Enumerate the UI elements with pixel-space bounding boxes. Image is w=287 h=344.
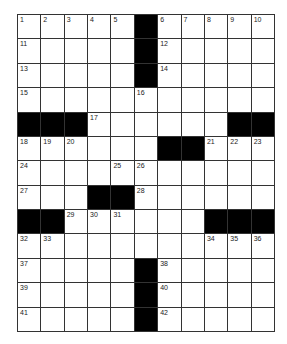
grid-cell[interactable]: 34 — [205, 234, 227, 257]
grid-cell[interactable]: 15 — [18, 88, 40, 111]
grid-cell[interactable] — [88, 234, 110, 257]
grid-cell[interactable] — [252, 88, 274, 111]
grid-cell[interactable]: 27 — [18, 186, 40, 209]
grid-cell[interactable] — [252, 283, 274, 306]
grid-cell[interactable] — [228, 39, 250, 62]
grid-cell[interactable] — [135, 113, 157, 136]
grid-cell[interactable]: 21 — [205, 137, 227, 160]
grid-cell[interactable]: 16 — [135, 88, 157, 111]
grid-cell[interactable] — [65, 308, 87, 331]
grid-cell[interactable] — [158, 161, 180, 184]
grid-cell[interactable] — [252, 64, 274, 87]
grid-cell[interactable] — [252, 259, 274, 282]
grid-cell[interactable]: 7 — [182, 15, 204, 38]
grid-cell[interactable] — [88, 39, 110, 62]
grid-cell[interactable] — [65, 259, 87, 282]
grid-cell[interactable] — [158, 234, 180, 257]
grid-cell[interactable]: 11 — [18, 39, 40, 62]
grid-cell[interactable] — [228, 308, 250, 331]
grid-cell[interactable] — [205, 186, 227, 209]
grid-cell[interactable] — [182, 161, 204, 184]
grid-cell[interactable]: 18 — [18, 137, 40, 160]
grid-cell[interactable] — [252, 39, 274, 62]
grid-cell[interactable] — [65, 283, 87, 306]
grid-cell[interactable] — [182, 283, 204, 306]
grid-cell[interactable]: 36 — [252, 234, 274, 257]
grid-cell[interactable] — [182, 210, 204, 233]
grid-cell[interactable]: 30 — [88, 210, 110, 233]
grid-cell[interactable]: 4 — [88, 15, 110, 38]
grid-cell[interactable] — [205, 259, 227, 282]
grid-cell[interactable]: 28 — [135, 186, 157, 209]
grid-cell[interactable]: 12 — [158, 39, 180, 62]
grid-cell[interactable] — [88, 259, 110, 282]
grid-cell[interactable] — [182, 88, 204, 111]
grid-cell[interactable]: 25 — [111, 161, 133, 184]
grid-cell[interactable] — [65, 161, 87, 184]
grid-cell[interactable]: 32 — [18, 234, 40, 257]
grid-cell[interactable] — [182, 186, 204, 209]
grid-cell[interactable] — [158, 186, 180, 209]
grid-cell[interactable] — [182, 64, 204, 87]
grid-cell[interactable]: 38 — [158, 259, 180, 282]
grid-cell[interactable] — [135, 234, 157, 257]
grid-cell[interactable] — [41, 161, 63, 184]
grid-cell[interactable]: 19 — [41, 137, 63, 160]
grid-cell[interactable]: 5 — [111, 15, 133, 38]
grid-cell[interactable] — [111, 64, 133, 87]
grid-cell[interactable]: 14 — [158, 64, 180, 87]
grid-cell[interactable] — [65, 186, 87, 209]
grid-cell[interactable] — [205, 113, 227, 136]
grid-cell[interactable] — [228, 283, 250, 306]
grid-cell[interactable]: 37 — [18, 259, 40, 282]
grid-cell[interactable] — [111, 308, 133, 331]
grid-cell[interactable]: 22 — [228, 137, 250, 160]
grid-cell[interactable] — [228, 259, 250, 282]
grid-cell[interactable] — [182, 234, 204, 257]
grid-cell[interactable] — [111, 137, 133, 160]
grid-cell[interactable] — [205, 88, 227, 111]
grid-cell[interactable]: 1 — [18, 15, 40, 38]
grid-cell[interactable] — [205, 308, 227, 331]
grid-cell[interactable]: 2 — [41, 15, 63, 38]
grid-cell[interactable] — [88, 161, 110, 184]
grid-cell[interactable] — [205, 64, 227, 87]
grid-cell[interactable]: 29 — [65, 210, 87, 233]
grid-cell[interactable] — [65, 88, 87, 111]
grid-cell[interactable] — [41, 186, 63, 209]
grid-cell[interactable] — [65, 234, 87, 257]
grid-cell[interactable]: 24 — [18, 161, 40, 184]
grid-cell[interactable]: 20 — [65, 137, 87, 160]
grid-cell[interactable] — [41, 64, 63, 87]
grid-cell[interactable]: 6 — [158, 15, 180, 38]
grid-cell[interactable] — [41, 283, 63, 306]
grid-cell[interactable] — [41, 88, 63, 111]
grid-cell[interactable] — [205, 39, 227, 62]
grid-cell[interactable] — [41, 259, 63, 282]
grid-cell[interactable] — [111, 234, 133, 257]
grid-cell[interactable]: 10 — [252, 15, 274, 38]
grid-cell[interactable] — [182, 259, 204, 282]
grid-cell[interactable]: 26 — [135, 161, 157, 184]
grid-cell[interactable] — [88, 137, 110, 160]
grid-cell[interactable] — [65, 39, 87, 62]
grid-cell[interactable] — [41, 308, 63, 331]
grid-cell[interactable] — [111, 39, 133, 62]
grid-cell[interactable] — [88, 283, 110, 306]
grid-cell[interactable] — [41, 39, 63, 62]
grid-cell[interactable] — [111, 259, 133, 282]
grid-cell[interactable]: 8 — [205, 15, 227, 38]
grid-cell[interactable] — [252, 308, 274, 331]
grid-cell[interactable]: 41 — [18, 308, 40, 331]
grid-cell[interactable] — [228, 186, 250, 209]
grid-cell[interactable] — [65, 64, 87, 87]
grid-cell[interactable] — [158, 210, 180, 233]
grid-cell[interactable]: 31 — [111, 210, 133, 233]
grid-cell[interactable] — [228, 161, 250, 184]
grid-cell[interactable]: 17 — [88, 113, 110, 136]
grid-cell[interactable]: 9 — [228, 15, 250, 38]
grid-cell[interactable]: 39 — [18, 283, 40, 306]
grid-cell[interactable] — [228, 64, 250, 87]
grid-cell[interactable] — [88, 64, 110, 87]
grid-cell[interactable] — [158, 88, 180, 111]
